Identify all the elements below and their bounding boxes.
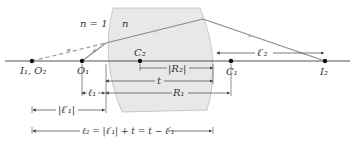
point-I1-O2 bbox=[30, 59, 34, 63]
label-n-outside: n = 1 bbox=[80, 18, 108, 29]
ray-direction-arrow bbox=[92, 49, 96, 53]
point-I2 bbox=[323, 59, 327, 63]
point-C1 bbox=[229, 59, 233, 63]
label-I1-O2: I₁, O₂ bbox=[19, 65, 47, 76]
label-ell2-equation: ℓ₂ = |ℓ′₁| + t = t − ℓ′₁ bbox=[82, 126, 175, 137]
label-ell1: ℓ₁ bbox=[88, 87, 96, 98]
point-C2 bbox=[138, 59, 142, 63]
ray-direction-arrow bbox=[66, 49, 71, 52]
thick-lens-diagram: I₁, O₂ O₁ C₂ C₁ I₂ n = 1 n ℓ′₂ |R₂| t ℓ₁… bbox=[0, 0, 356, 144]
label-ell1-prime: |ℓ′₁| bbox=[58, 104, 75, 116]
point-O1 bbox=[80, 59, 84, 63]
label-R2: |R₂| bbox=[168, 63, 186, 75]
label-O1: O₁ bbox=[77, 65, 89, 76]
label-C2: C₂ bbox=[134, 47, 146, 58]
label-n-lens: n bbox=[122, 18, 128, 29]
label-I2: I₂ bbox=[319, 66, 328, 77]
label-C1: C₁ bbox=[226, 66, 238, 77]
ray-direction-arrow bbox=[248, 34, 253, 38]
label-R1: R₁ bbox=[172, 87, 185, 98]
label-ell2-prime: ℓ′₂ bbox=[257, 47, 267, 58]
